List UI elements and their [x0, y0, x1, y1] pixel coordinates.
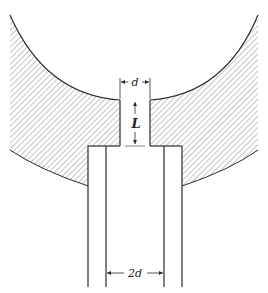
- 2d-label: 2d: [127, 267, 142, 280]
- d-label: d: [131, 76, 138, 89]
- nozzle-diagram: d L 2d: [0, 0, 268, 293]
- L-label: L: [130, 116, 140, 131]
